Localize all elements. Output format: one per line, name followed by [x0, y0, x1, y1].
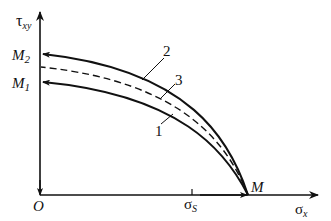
curve-label-1: 1	[155, 123, 163, 139]
stress-diagram: τxy M2 M1 O σS M σx 2 3 1	[0, 0, 331, 221]
point-label-m: M	[250, 179, 265, 195]
leader-3	[160, 84, 175, 99]
curve-label-3: 3	[175, 72, 183, 88]
curve-1	[43, 82, 248, 195]
sigma-s-label: σS	[184, 196, 197, 214]
y-axis-label: τxy	[16, 12, 32, 31]
leader-1	[161, 114, 173, 124]
point-label-m2: M2	[11, 47, 31, 65]
point-label-m1: M1	[11, 75, 30, 93]
x-axis-label: σx	[295, 201, 308, 219]
curve-2	[43, 54, 248, 195]
origin-label: O	[33, 198, 44, 214]
leader-2	[142, 58, 164, 80]
curve-label-2: 2	[163, 43, 171, 59]
